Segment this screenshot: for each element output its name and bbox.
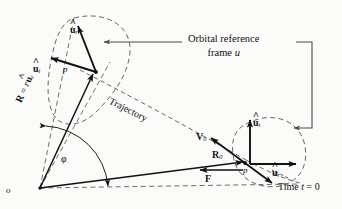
annotation-orbital-reference-frame: Orbital reference frame u bbox=[188, 32, 259, 60]
vector-R0-label: R0 bbox=[212, 150, 222, 161]
unit-vector-ut-left-label: ut bbox=[33, 64, 40, 75]
origin-label: o bbox=[6, 186, 11, 195]
point-p-right-label: p bbox=[243, 166, 248, 175]
vector-F-label: F bbox=[205, 174, 211, 184]
leader-line-to-right-lobe bbox=[294, 42, 312, 128]
vector-V0-label: V0 bbox=[196, 132, 206, 143]
trajectory-tangent-line bbox=[245, 163, 272, 183]
unit-vector-ur-right-label: ur bbox=[272, 168, 280, 179]
time-caption: Time t = 0 bbox=[278, 182, 320, 192]
unit-vector-ur-left-label: ur bbox=[70, 25, 78, 36]
unit-vector-ut-right-label: ut bbox=[253, 118, 260, 129]
phi-angle-label: φ bbox=[61, 154, 67, 164]
unit-vector-ur-left bbox=[78, 26, 96, 72]
vector-R0 bbox=[40, 162, 243, 188]
point-origin bbox=[38, 186, 41, 189]
unit-vector-ut-left bbox=[51, 58, 96, 72]
trajectory-curve bbox=[80, 70, 246, 160]
point-p-left-label: p bbox=[63, 65, 68, 74]
point-p-left bbox=[94, 70, 98, 74]
orbital-reference-frame-diagram bbox=[0, 0, 342, 209]
radial-guide-right bbox=[40, 184, 300, 188]
radial-guide-left bbox=[40, 18, 74, 188]
radial-guide-mid bbox=[40, 62, 110, 188]
